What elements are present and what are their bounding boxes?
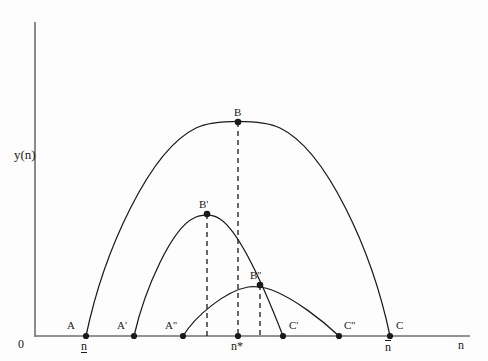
tick-label-n-upper: n (385, 340, 391, 353)
tick-label-n-lower: n (81, 340, 87, 353)
point-b (235, 119, 242, 126)
x-axis-label: n (458, 339, 464, 351)
tick-label-n-star: n* (231, 340, 243, 352)
inner-yield-curve (183, 287, 339, 336)
yield-curve-figure (0, 0, 488, 361)
label-point-b-prime: B' (199, 199, 208, 210)
label-point-b-double-prime: B'' (250, 270, 261, 281)
point-c-double-prime (336, 333, 342, 339)
point-b-prime (204, 211, 211, 218)
origin-label: 0 (18, 338, 24, 350)
label-point-c-double-prime: C'' (344, 320, 355, 331)
point-c (387, 333, 393, 339)
label-point-c: C (396, 320, 403, 331)
label-point-c-prime: C' (289, 320, 298, 331)
point-b-double-prime (257, 282, 264, 289)
y-axis-label: y(n) (14, 148, 36, 161)
point-a-double-prime (180, 333, 186, 339)
label-point-b: B (234, 107, 241, 118)
label-point-a: A (67, 320, 75, 331)
label-point-a-double-prime: A'' (165, 320, 177, 331)
point-a-prime (131, 333, 137, 339)
point-c-prime (280, 333, 286, 339)
label-point-a-prime: A' (117, 320, 127, 331)
